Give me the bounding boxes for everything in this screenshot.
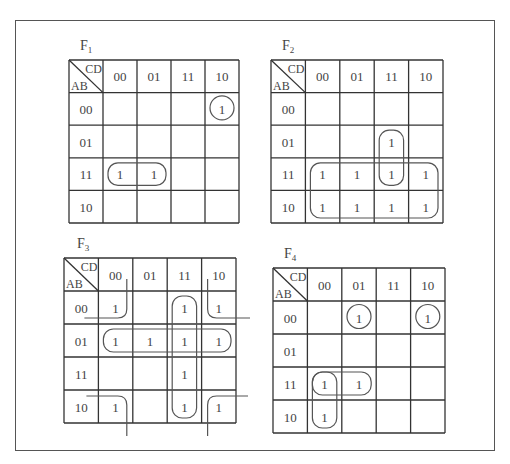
row-variable-label: AB xyxy=(66,277,83,291)
row-variable-label: AB xyxy=(275,287,292,301)
col-header: 10 xyxy=(419,69,432,84)
col-header: 11 xyxy=(385,69,398,84)
col-header: 11 xyxy=(387,278,400,293)
row-header: 11 xyxy=(284,377,297,392)
col-header: 10 xyxy=(212,268,225,283)
cell-value: 1 xyxy=(354,167,361,182)
row-header: 10 xyxy=(80,200,93,215)
cell-value: 1 xyxy=(388,135,395,150)
cell-value: 1 xyxy=(112,400,119,415)
cell-value: 1 xyxy=(388,200,395,215)
row-header: 01 xyxy=(75,334,88,349)
col-header: 00 xyxy=(316,69,329,84)
cell-value: 1 xyxy=(423,167,430,182)
col-header: 00 xyxy=(109,268,122,283)
cell-value: 1 xyxy=(181,400,188,415)
wrap-around-loop xyxy=(86,396,126,436)
cell-value: 1 xyxy=(321,410,328,425)
cell-value: 1 xyxy=(356,311,363,326)
row-header: 01 xyxy=(284,344,297,359)
wrap-around-loop xyxy=(84,279,126,318)
cell-value: 1 xyxy=(112,301,119,316)
col-variable-label: CD xyxy=(290,270,307,284)
kmap-title: F3 xyxy=(77,236,90,253)
cell-value: 1 xyxy=(219,102,226,117)
cell-value: 1 xyxy=(356,377,363,392)
col-header: 01 xyxy=(144,268,157,283)
cell-value: 1 xyxy=(216,334,223,349)
row-header: 00 xyxy=(284,311,297,326)
row-header: 11 xyxy=(282,167,295,182)
col-header: 11 xyxy=(178,268,191,283)
kmap-figure: F1CDAB0001111000011110111F2CDAB000111100… xyxy=(0,0,510,464)
row-variable-label: AB xyxy=(71,79,88,93)
col-header: 10 xyxy=(216,69,229,84)
row-header: 10 xyxy=(284,410,297,425)
kmap-f1: F1CDAB0001111000011110111 xyxy=(69,38,239,223)
col-header: 11 xyxy=(182,69,195,84)
row-header: 00 xyxy=(75,301,88,316)
kmap-f2: F2CDAB0001111000011110111111111 xyxy=(271,38,443,223)
col-variable-label: CD xyxy=(288,62,305,76)
col-header: 10 xyxy=(421,278,434,293)
col-header: 00 xyxy=(318,278,331,293)
row-header: 01 xyxy=(80,135,93,150)
cell-value: 1 xyxy=(181,301,188,316)
col-header: 01 xyxy=(353,278,366,293)
cell-value: 1 xyxy=(216,301,223,316)
col-variable-label: CD xyxy=(81,260,98,274)
wrap-around-loop xyxy=(208,396,248,436)
wrap-around-loop xyxy=(208,279,250,318)
cell-value: 1 xyxy=(319,200,326,215)
cell-value: 1 xyxy=(181,367,188,382)
row-header: 00 xyxy=(282,102,295,117)
kmap-title: F1 xyxy=(80,38,92,55)
col-header: 00 xyxy=(114,69,127,84)
cell-value: 1 xyxy=(319,167,326,182)
row-header: 10 xyxy=(75,400,88,415)
cell-value: 1 xyxy=(321,377,328,392)
row-header: 11 xyxy=(75,367,88,382)
cell-value: 1 xyxy=(423,200,430,215)
kmap-title: F2 xyxy=(282,38,294,55)
cell-value: 1 xyxy=(181,334,188,349)
cell-value: 1 xyxy=(147,334,154,349)
row-header: 01 xyxy=(282,135,295,150)
cell-value: 1 xyxy=(388,167,395,182)
kmap-f4: F4CDAB000111100001111011111 xyxy=(273,246,445,433)
cell-value: 1 xyxy=(425,311,432,326)
row-variable-label: AB xyxy=(273,79,290,93)
row-header: 11 xyxy=(80,167,93,182)
col-variable-label: CD xyxy=(85,62,102,76)
cell-value: 1 xyxy=(354,200,361,215)
cell-value: 1 xyxy=(216,400,223,415)
cell-value: 1 xyxy=(151,167,158,182)
cell-value: 1 xyxy=(112,334,119,349)
row-header: 00 xyxy=(80,102,93,117)
kmap-f3: F3CDAB000111100001111011111111111 xyxy=(64,236,250,436)
cell-value: 1 xyxy=(117,167,124,182)
kmap-canvas: F1CDAB0001111000011110111F2CDAB000111100… xyxy=(0,0,510,464)
kmap-title: F4 xyxy=(284,246,297,263)
col-header: 01 xyxy=(351,69,364,84)
row-header: 10 xyxy=(282,200,295,215)
col-header: 01 xyxy=(148,69,161,84)
